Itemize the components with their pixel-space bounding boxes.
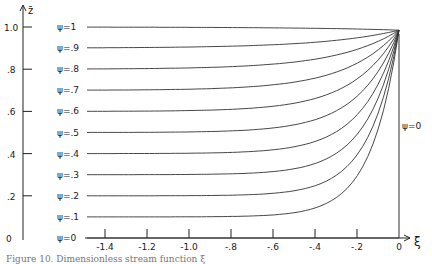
x-tick-label: -.6 (267, 242, 279, 252)
psi-label: ψ=.6 (57, 106, 79, 116)
x-tick-label: -.2 (351, 242, 363, 252)
psi-label: ψ=.8 (57, 64, 79, 74)
curve-psi-04 (87, 30, 399, 153)
x-ticks: -1.4-1.2-1.0-.8-.6-.4-.20 (96, 229, 402, 252)
x-tick-label: -1.2 (138, 242, 156, 252)
y-tick-label: .4 (7, 150, 16, 160)
y-tick-label: 1.0 (4, 23, 19, 33)
y-tick-label: .6 (7, 107, 16, 117)
psi-label: ψ=1 (57, 22, 76, 32)
y-ticks: 0.2.4.6.81.0 (4, 23, 32, 244)
x-tick-label: -1.0 (180, 242, 198, 252)
psi-label: ψ=.2 (57, 191, 79, 201)
curve-psi-03 (87, 30, 399, 175)
curve-psi-02 (87, 30, 399, 196)
psi-zero-right-label: ψ=0 (402, 121, 421, 131)
figure-caption: Figure 10. Dimensionless stream function… (6, 254, 205, 264)
x-axis-label: ξ (414, 235, 421, 249)
psi-label: ψ=.3 (57, 170, 79, 180)
x-tick-label: 0 (396, 242, 402, 252)
y-tick-label: .8 (7, 65, 16, 75)
psi-curves (87, 27, 399, 238)
curve-psi-09 (87, 30, 399, 48)
psi-label: ψ=0 (57, 233, 76, 243)
y-tick-label: 0 (6, 234, 12, 244)
y-axis (20, 5, 26, 240)
curve-psi-06 (87, 30, 399, 111)
psi-label: ψ=.4 (57, 149, 79, 159)
psi-label: ψ=.7 (57, 85, 79, 95)
y-tick-label: .2 (7, 192, 16, 202)
x-tick-label: -.8 (225, 242, 237, 252)
curve-psi-1 (87, 27, 399, 30)
y-axis-label: z̄ (28, 5, 33, 16)
psi-label: ψ=.9 (57, 43, 79, 53)
curve-psi-07 (87, 30, 399, 90)
x-tick-label: -.4 (309, 242, 321, 252)
curve-psi-01 (87, 30, 399, 217)
psi-label: ψ=.5 (57, 128, 79, 138)
x-tick-label: -1.4 (96, 242, 114, 252)
psi-label: ψ=.1 (57, 212, 79, 222)
psi-labels: ψ=1ψ=.9ψ=.8ψ=.7ψ=.6ψ=.5ψ=.4ψ=.3ψ=.2ψ=.1ψ… (57, 22, 79, 243)
curve-psi-08 (87, 30, 399, 69)
